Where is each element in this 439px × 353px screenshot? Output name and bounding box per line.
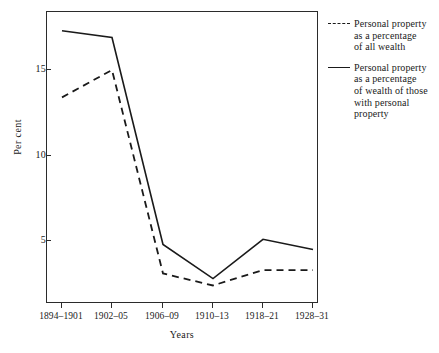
x-axis-title: Years: [46, 329, 318, 340]
x-tick-mark-3: [212, 303, 213, 308]
dashed-line-swatch-icon: [328, 23, 350, 24]
x-tick-mark-0: [61, 303, 62, 308]
legend-label-line-2: as a percentage: [354, 73, 439, 85]
x-tick-label-5: 1928–31: [280, 311, 344, 322]
legend-entry-all-wealth: Personal property as a percentage of all…: [328, 18, 439, 53]
figure-caption: [6, 341, 126, 349]
legend-label-line-3: of wealth of those: [354, 85, 439, 97]
legend-label-line-1: Personal property: [354, 62, 439, 74]
solid-line-swatch-icon: [328, 67, 350, 69]
legend-label-line-4: with personal: [354, 97, 439, 109]
x-tick-mark-5: [312, 303, 313, 308]
legend-entry-those-with-personal-property: Personal property as a percentage of wea…: [328, 62, 439, 120]
legend-label-line-5: property: [354, 108, 439, 120]
legend-label-line-2: as a percentage: [354, 30, 439, 42]
figure-chart: 15 10 5 Per cent 1894–1901 1902–05 1906–…: [0, 0, 439, 353]
x-tick-mark-4: [262, 303, 263, 308]
legend-label-line-1: Personal property: [354, 18, 439, 30]
x-tick-mark-1: [111, 303, 112, 308]
chart-legend: Personal property as a percentage of all…: [328, 18, 439, 129]
legend-label-line-3: of all wealth: [354, 41, 439, 53]
x-tick-mark-2: [162, 303, 163, 308]
